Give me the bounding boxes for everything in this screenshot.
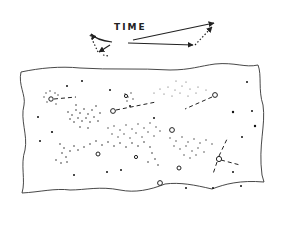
sheet-outline xyxy=(20,64,264,193)
field-stars xyxy=(37,80,256,189)
star-b xyxy=(111,109,116,114)
star-i xyxy=(134,155,137,158)
bright-stars xyxy=(49,93,222,186)
time-arrow-short xyxy=(99,45,110,52)
time-label: TIME xyxy=(114,22,147,32)
time-vectors xyxy=(90,23,214,56)
star-f xyxy=(216,156,221,161)
star-j xyxy=(124,94,127,97)
nebula-dots xyxy=(43,81,212,166)
time-arrow-lower xyxy=(128,43,193,45)
star-c xyxy=(213,93,218,98)
star-g xyxy=(177,166,181,170)
star-h xyxy=(158,181,163,186)
star-field-diagram xyxy=(0,0,283,228)
time-arrow-dotted xyxy=(195,27,212,45)
star-d xyxy=(170,128,175,133)
constellation-links xyxy=(54,97,240,174)
star-a xyxy=(49,97,53,101)
star-e xyxy=(96,152,100,156)
time-arrow-curve xyxy=(91,34,112,42)
